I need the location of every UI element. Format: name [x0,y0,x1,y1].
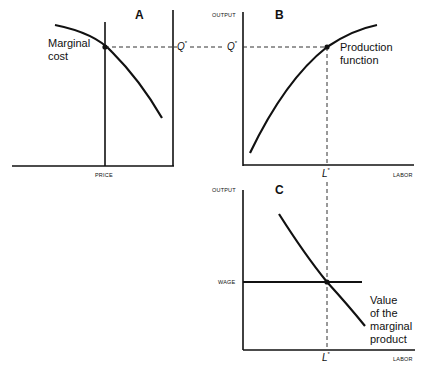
star-superscript: * [235,40,237,46]
wage-axis-label: WAGE [218,279,235,285]
equilibrium-point-b [324,44,329,49]
panel-c-label: C [275,183,284,197]
q-star-label-b: Q* [227,41,237,52]
star-superscript: * [185,40,187,46]
marginal-cost-label-line2: cost [48,50,68,63]
value-of-marginal-product-curve [279,214,365,326]
l-star-label-b: L* [322,168,330,179]
q-symbol: Q [177,41,185,52]
vmp-label-line3: marginal [370,320,412,333]
equilibrium-point-a [102,44,107,49]
panel-b-label: B [275,8,284,22]
l-star-label-c: L* [322,352,330,363]
panel-b-x-axis-label: LABOR [393,172,413,178]
l-symbol: L [322,168,328,179]
panel-b [243,12,414,166]
panel-a [12,10,174,166]
vmp-label-line4: product [370,333,407,346]
panel-c-y-axis-label: OUTPUT [212,187,236,193]
marginal-cost-label-line1: Marginal [48,37,90,50]
star-superscript: * [328,167,330,173]
production-function-label-line1: Production [340,41,393,54]
vmp-label-line2: of the [370,307,398,320]
q-star-label-a: Q* [177,41,187,52]
panel-b-y-axis-label: OUTPUT [212,12,236,18]
panel-a-x-axis-label: PRICE [95,172,113,178]
l-symbol: L [322,352,328,363]
equilibrium-point-c [324,279,329,284]
panel-c-x-axis-label: LABOR [393,356,413,362]
q-symbol: Q [227,41,235,52]
production-function-label-line2: function [340,54,379,67]
vmp-label-line1: Value [370,294,397,307]
panel-a-label: A [135,8,144,22]
star-superscript: * [328,351,330,357]
